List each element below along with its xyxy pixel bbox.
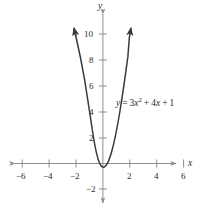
y-tick-label-6: 6 — [89, 82, 94, 91]
equation-plus-1: + — [144, 98, 149, 108]
y-tick-label-8: 8 — [89, 56, 94, 65]
x-tick-label-minus4: −4 — [43, 172, 53, 181]
x-tick-label-minus2: −2 — [70, 172, 80, 181]
y-tick-label-2: 2 — [89, 134, 94, 143]
x-tick-label-6: 6 — [181, 172, 186, 181]
quadratic-graph-figure: −6 −4 −2 2 4 6 10 8 6 4 2 −2 y x y=3x2+4… — [0, 0, 200, 209]
y-axis — [99, 14, 107, 203]
x-axis-label: x — [188, 159, 192, 169]
x-tick-label-minus6: −6 — [16, 172, 26, 181]
x-tick-label-4: 4 — [154, 172, 159, 181]
y-tick-label-10: 10 — [84, 30, 93, 39]
equation-annotation: y=3x2+4x+1 — [116, 97, 174, 109]
equation-constant-c: 1 — [169, 98, 174, 108]
equation-equals: = — [122, 98, 127, 108]
x-tick-label-2: 2 — [127, 172, 132, 181]
y-tick-label-4: 4 — [89, 108, 94, 117]
equation-plus-2: + — [162, 98, 167, 108]
y-axis-label: y — [98, 2, 102, 12]
curve-arrow-left — [74, 28, 76, 37]
equation-lhs: y — [116, 98, 120, 108]
curve-arrow-right — [129, 28, 131, 38]
equation-variable-x-linear: x — [156, 98, 160, 108]
y-tick-label-minus2: −2 — [86, 185, 96, 194]
equation-exponent-2: 2 — [139, 96, 142, 103]
